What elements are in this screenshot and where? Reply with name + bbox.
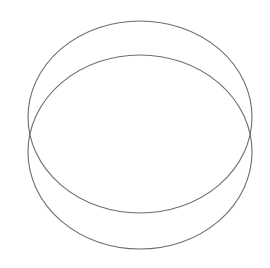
upper-ellipse bbox=[28, 21, 252, 213]
lower-ellipse bbox=[28, 55, 252, 249]
diagram-canvas bbox=[0, 0, 270, 268]
